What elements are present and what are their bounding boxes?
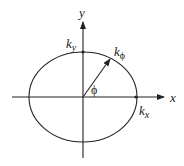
kx-point	[134, 95, 137, 98]
phi-angle-label: ϕ	[91, 83, 97, 97]
y-axis-label: y	[77, 5, 85, 20]
kx-label: kx	[139, 103, 150, 120]
ky-label: ky	[66, 36, 77, 53]
ellipse-diagram: y x ky kx kϕ ϕ	[0, 0, 184, 166]
x-axis-label: x	[169, 90, 176, 105]
ky-point	[81, 50, 84, 53]
kphi-label: kϕ	[114, 44, 125, 61]
